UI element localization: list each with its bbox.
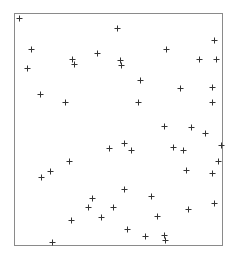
plus-marker-icon — [216, 159, 222, 165]
plus-marker-icon — [122, 141, 128, 147]
plus-marker-icon — [95, 51, 101, 57]
plus-marker-icon — [155, 214, 161, 220]
plus-marker-icon — [186, 207, 192, 213]
plus-marker-icon — [203, 131, 209, 137]
plus-marker-icon — [138, 78, 144, 84]
plus-marker-icon — [67, 159, 73, 165]
plus-marker-icon — [163, 238, 169, 244]
plus-marker-icon — [149, 194, 155, 200]
plus-marker-icon — [162, 124, 168, 130]
plus-marker-icon — [99, 215, 105, 221]
plus-marker-icon — [181, 148, 187, 154]
plus-marker-icon — [189, 125, 195, 131]
plus-marker-icon — [86, 205, 92, 211]
plus-marker-icon — [197, 57, 203, 63]
plus-marker-icon — [125, 227, 131, 233]
plus-marker-icon — [162, 233, 168, 239]
plus-marker-icon — [184, 168, 190, 174]
plus-marker-icon — [143, 234, 149, 240]
plus-marker-icon — [107, 146, 113, 152]
plus-marker-icon — [212, 201, 218, 207]
plus-marker-icon — [38, 92, 44, 98]
scatter-plot — [0, 0, 236, 256]
plus-marker-icon — [178, 86, 184, 92]
plus-marker-icon — [136, 100, 142, 106]
plus-marker-icon — [119, 63, 125, 69]
plus-marker-icon — [63, 100, 69, 106]
plus-marker-icon — [212, 38, 218, 44]
plus-marker-icon — [48, 169, 54, 175]
plus-marker-icon — [29, 47, 35, 53]
plus-marker-icon — [17, 16, 23, 22]
plus-marker-icon — [210, 171, 216, 177]
plus-marker-icon — [219, 143, 225, 149]
plus-marker-icon — [111, 205, 117, 211]
plus-marker-icon — [214, 57, 220, 63]
plus-marker-icon — [210, 85, 216, 91]
plus-marker-icon — [69, 218, 75, 224]
plus-marker-icon — [171, 145, 177, 151]
plus-marker-icon — [118, 58, 124, 64]
plus-marker-icon — [90, 196, 96, 202]
plus-marker-icon — [122, 187, 128, 193]
data-points — [17, 16, 225, 246]
plus-marker-icon — [50, 240, 56, 246]
plus-marker-icon — [129, 148, 135, 154]
plus-marker-icon — [115, 26, 121, 32]
plus-marker-icon — [25, 66, 31, 72]
plus-marker-icon — [39, 175, 45, 181]
plus-marker-icon — [164, 47, 170, 53]
plus-marker-icon — [210, 100, 216, 106]
